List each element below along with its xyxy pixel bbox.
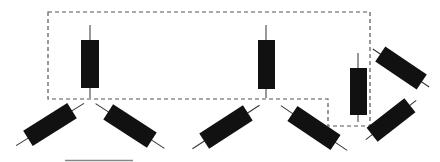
resistor-r8: [368, 42, 434, 95]
resistor-r3: [350, 53, 367, 122]
resistor-r5: [91, 96, 170, 156]
resistor-r4: [11, 96, 88, 154]
resistor-r7: [276, 98, 352, 158]
resistor-r6: [188, 98, 265, 157]
resistor-r1: [81, 25, 99, 98]
resistor-r2: [258, 25, 275, 98]
resistor-diagram: [0, 0, 440, 162]
